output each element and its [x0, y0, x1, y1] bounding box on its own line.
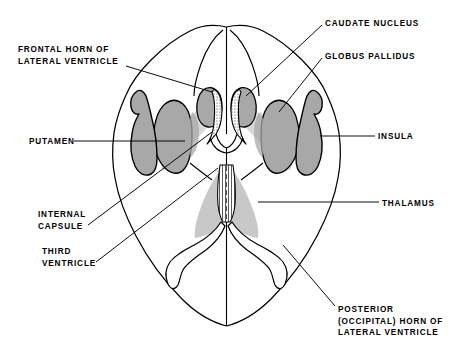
label-posterior-occipital-horn: POSTERIOR (OCCIPITAL) HORN OF LATERAL VE…	[338, 304, 443, 339]
label-putamen: PUTAMEN	[29, 136, 75, 148]
diagram-page: FRONTAL HORN OF LATERAL VENTRICLE CAUDAT…	[0, 0, 453, 356]
label-internal-capsule: INTERNAL CAPSULE	[38, 209, 86, 232]
label-caudate-nucleus: CAUDATE NUCLEUS	[325, 18, 419, 30]
label-insula: INSULA	[378, 131, 414, 143]
label-frontal-horn-of-lateral-ventricle: FRONTAL HORN OF LATERAL VENTRICLE	[18, 44, 119, 67]
label-third-ventricle: THIRD VENTRICLE	[42, 246, 96, 269]
label-thalamus: THALAMUS	[382, 198, 435, 210]
label-globus-pallidus: GLOBUS PALLIDUS	[325, 51, 415, 63]
third-ventricle	[218, 165, 236, 222]
